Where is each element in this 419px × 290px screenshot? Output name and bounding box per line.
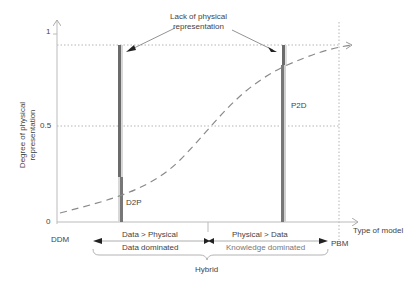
d2p-label: D2P xyxy=(126,199,142,207)
s-curve xyxy=(60,45,352,213)
data-gt-physical-label: Data > Physical xyxy=(122,231,178,239)
physical-gt-data-label: Physical > Data xyxy=(232,231,288,239)
y-axis-title: Degree of physical representation xyxy=(18,80,38,190)
hybrid-model-diagram: Degree of physical representation 1 0.5 … xyxy=(0,0,419,290)
y-axis-title-line1: Degree of physical xyxy=(18,80,28,190)
hybrid-label: Hybrid xyxy=(195,266,218,274)
x-axis-title: Type of model xyxy=(353,227,403,235)
annotation-line2: representation xyxy=(170,22,227,32)
pbm-label: PBM xyxy=(331,240,348,248)
annotation-label: Lack of physical representation xyxy=(170,12,227,32)
axes xyxy=(53,20,358,224)
y-tick-1: 1 xyxy=(46,28,50,36)
p2d-label: P2D xyxy=(291,102,307,110)
diagram-graphics xyxy=(0,0,419,290)
gridlines xyxy=(57,22,340,240)
annotation-line1: Lack of physical xyxy=(170,12,227,22)
data-dominated-label: Data dominated xyxy=(122,244,178,252)
knowledge-dominated-label: Knowledge dominated xyxy=(226,244,305,252)
y-tick-0-5: 0.5 xyxy=(40,122,51,130)
y-axis-title-line2: representation xyxy=(28,80,38,190)
ddm-label: DDM xyxy=(51,236,69,244)
y-tick-0: 0 xyxy=(46,218,50,226)
bar-p2d xyxy=(281,45,287,222)
